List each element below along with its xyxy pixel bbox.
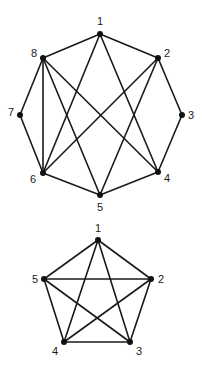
edge-1-5 xyxy=(44,240,98,279)
vertex-5 xyxy=(97,192,103,198)
vertex-1 xyxy=(97,31,103,37)
vertex-label-7: 7 xyxy=(8,106,14,118)
vertex-4 xyxy=(61,339,67,345)
octagon-graph: 12345678 xyxy=(8,15,194,213)
vertex-5 xyxy=(41,276,47,282)
vertex-label-6: 6 xyxy=(30,173,36,185)
vertex-label-8: 8 xyxy=(31,47,37,59)
vertex-label-1: 1 xyxy=(97,15,103,27)
vertex-6 xyxy=(40,170,46,176)
pentagon-graph: 12345 xyxy=(32,222,164,357)
edge-1-3 xyxy=(98,240,130,342)
vertex-3 xyxy=(179,112,185,118)
vertex-7 xyxy=(17,112,23,118)
vertex-label-4: 4 xyxy=(52,345,58,357)
edge-8-7 xyxy=(20,58,43,115)
graph-diagram: 12345678 12345 xyxy=(0,0,202,370)
edge-2-4 xyxy=(64,279,151,342)
vertex-label-1: 1 xyxy=(95,222,101,234)
vertex-label-5: 5 xyxy=(32,273,38,285)
vertex-label-4: 4 xyxy=(164,172,170,184)
vertex-1 xyxy=(95,237,101,243)
edge-2-5 xyxy=(100,58,158,195)
vertex-label-3: 3 xyxy=(188,109,194,121)
vertex-4 xyxy=(155,169,161,175)
vertex-label-5: 5 xyxy=(97,201,103,213)
edge-1-4 xyxy=(64,240,98,342)
vertex-2 xyxy=(148,276,154,282)
edge-7-6 xyxy=(20,115,43,173)
vertex-label-3: 3 xyxy=(136,345,142,357)
edge-2-3 xyxy=(130,279,151,342)
edge-3-4 xyxy=(158,115,182,172)
vertex-2 xyxy=(155,55,161,61)
vertex-3 xyxy=(127,339,133,345)
vertex-label-2: 2 xyxy=(158,273,164,285)
vertex-8 xyxy=(40,55,46,61)
edge-3-5 xyxy=(44,279,130,342)
edges xyxy=(44,240,151,342)
vertex-label-2: 2 xyxy=(164,47,170,59)
edge-1-2 xyxy=(98,240,151,279)
nodes xyxy=(41,237,154,345)
edge-8-5 xyxy=(43,58,100,195)
edge-4-5 xyxy=(44,279,64,342)
edge-2-3 xyxy=(158,58,182,115)
